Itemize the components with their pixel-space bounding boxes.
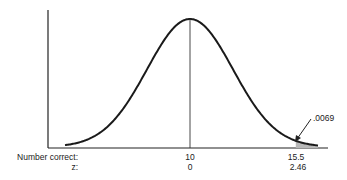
number-correct-label: Number correct: (17, 152, 78, 162)
mean-z-tick: 0 (188, 162, 193, 172)
cutoff-z-tick: 2.46 (290, 162, 307, 172)
z-label: z: (71, 162, 78, 172)
tail-probability-annotation: .0069 (313, 113, 334, 123)
mean-value-tick: 10 (185, 152, 194, 162)
normal-curve (65, 19, 318, 145)
annotation-arrow (297, 119, 311, 139)
cutoff-value-tick: 15.5 (288, 152, 305, 162)
